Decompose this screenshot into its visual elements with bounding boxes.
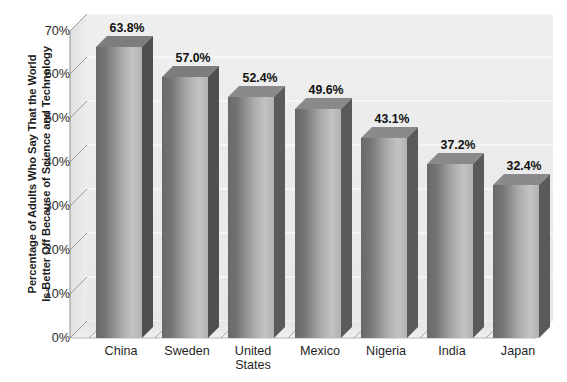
bar-chart: Percentage of Adults Who Say That the Wo… [0, 0, 567, 382]
bar-nigeria [361, 127, 418, 338]
value-label-united-states: 52.4% [229, 71, 291, 85]
x-tick-label-india: India [416, 344, 488, 358]
value-label-india: 37.2% [427, 138, 489, 152]
y-tick-label-30: 30% [30, 200, 70, 212]
y-axis-tick-labels: 0% 10% 20% 30% 40% 50% 60% 70% [16, 0, 70, 382]
plot-area [0, 0, 567, 382]
y-tick-label-60: 60% [30, 68, 70, 80]
plot-left-wall [70, 14, 87, 338]
bar-united-states [228, 86, 285, 338]
x-tick-label-united-states-line-2: States [235, 358, 271, 372]
value-label-mexico: 49.6% [295, 83, 357, 97]
x-tick-label-mexico: Mexico [284, 344, 356, 358]
y-tick-label-70: 70% [30, 25, 70, 37]
x-tick-label-japan: Japan [482, 344, 554, 358]
x-tick-label-united-states-line-1: United [235, 344, 271, 358]
bar-china [96, 36, 153, 338]
bar-japan [493, 174, 550, 338]
bar-india [427, 153, 484, 338]
bar-sweden [162, 66, 219, 338]
value-label-sweden: 57.0% [162, 51, 224, 65]
value-label-nigeria: 43.1% [361, 112, 423, 126]
x-tick-label-sweden: Sweden [151, 344, 223, 358]
y-tick-label-10: 10% [30, 288, 70, 300]
bar-mexico [295, 98, 352, 338]
y-tick-label-40: 40% [30, 156, 70, 168]
x-tick-label-china: China [85, 344, 157, 358]
y-tick-label-50: 50% [30, 112, 70, 124]
y-tick-label-0: 0% [30, 332, 70, 344]
y-tick-label-20: 20% [30, 244, 70, 256]
x-tick-label-nigeria: Nigeria [350, 344, 422, 358]
value-label-japan: 32.4% [493, 159, 555, 173]
value-label-china: 63.8% [96, 21, 158, 35]
x-tick-label-united-states: UnitedStates [217, 344, 289, 372]
